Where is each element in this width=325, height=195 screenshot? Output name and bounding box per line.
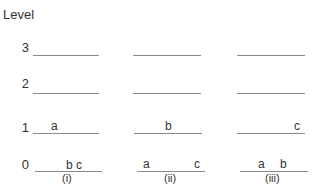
caption-iii: (iii)	[265, 172, 280, 184]
axis-title: Level	[3, 7, 34, 22]
particle-c-level-0-i: c	[76, 158, 82, 172]
particle-b-level-1-ii: b	[165, 119, 172, 133]
caption-ii: (ii)	[164, 172, 176, 184]
level-2-line-iii	[237, 93, 305, 94]
level-label-0: 0	[17, 157, 29, 172]
particle-c-level-1-iii: c	[294, 119, 300, 133]
level-1-line-iii	[237, 133, 305, 134]
particle-a-level-1-i: a	[51, 119, 58, 133]
level-3-line-i	[33, 55, 99, 56]
caption-i: (i)	[62, 172, 72, 184]
particle-b-level-0-i: b	[66, 158, 73, 172]
level-label-3: 3	[17, 40, 29, 55]
level-label-1: 1	[17, 120, 29, 135]
particle-b-level-0-iii: b	[280, 157, 287, 171]
particle-a-level-0-iii: a	[258, 157, 265, 171]
particle-c-level-0-ii: c	[194, 157, 200, 171]
particle-a-level-0-ii: a	[143, 157, 150, 171]
level-3-line-ii	[133, 55, 201, 56]
level-3-line-iii	[237, 55, 305, 56]
level-2-line-ii	[133, 93, 201, 94]
level-label-2: 2	[17, 76, 29, 91]
level-1-line-ii	[134, 133, 202, 134]
level-2-line-i	[33, 93, 99, 94]
level-1-line-i	[33, 133, 99, 134]
